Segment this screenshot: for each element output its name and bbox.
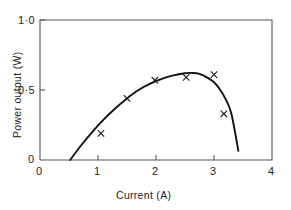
data-markers — [98, 71, 227, 136]
x-axis-title: Current (A) — [116, 190, 171, 201]
data-point-marker — [98, 130, 104, 136]
data-point-marker — [183, 74, 189, 80]
chart-canvas — [0, 0, 291, 210]
axis-ticks — [40, 20, 214, 160]
y-tick-label-1-0: 1·0 — [18, 15, 35, 26]
chart-figure: 1·0 0·5 0 0 1 2 3 4 Current (A) Power ou… — [0, 0, 291, 210]
x-tick-label-2: 2 — [152, 166, 159, 177]
x-tick-label-0: 0 — [36, 166, 43, 177]
data-point-marker — [221, 111, 227, 117]
y-tick-label-0: 0 — [28, 154, 35, 165]
data-point-marker — [124, 95, 130, 101]
x-tick-label-3: 3 — [210, 166, 217, 177]
y-axis-title: Power output (W) — [12, 52, 23, 139]
x-tick-label-4: 4 — [268, 166, 275, 177]
x-tick-label-1: 1 — [94, 166, 101, 177]
data-curve — [70, 73, 238, 160]
data-point-marker — [211, 71, 217, 77]
